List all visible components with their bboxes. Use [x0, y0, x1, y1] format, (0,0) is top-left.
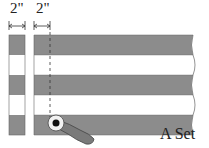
left-strip-segment [9, 35, 25, 135]
dimension-arrow-right [34, 21, 50, 30]
dimension-arrow-left [9, 21, 25, 30]
set-caption: A Set [160, 125, 195, 143]
